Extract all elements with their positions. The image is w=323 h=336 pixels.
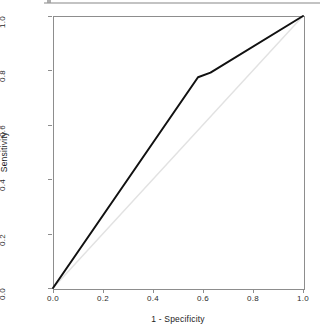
chart-curves	[53, 16, 303, 288]
x-tick-mark	[203, 289, 204, 293]
x-axis-title: 1 - Specificity	[151, 314, 205, 324]
x-tick-label: 0.2	[97, 294, 109, 303]
x-tick-mark	[253, 289, 254, 293]
x-tick-mark	[303, 289, 304, 293]
y-tick-mark	[48, 288, 52, 289]
plot-surface	[53, 16, 303, 288]
clipped-top-edge	[44, 2, 320, 4]
roc-plot: 0.0 0.2 0.4 0.6 0.8 1.0 0.0 0.2 0.4 0.6 …	[0, 0, 323, 336]
x-tick-label: 0.8	[247, 294, 259, 303]
x-tick-label: 0.4	[147, 294, 159, 303]
clipped-top-speck	[47, 0, 51, 3]
y-axis-title: Sensitivity	[0, 132, 9, 172]
x-tick-mark	[53, 289, 54, 293]
x-tick-label: 0.0	[47, 294, 59, 303]
y-tick-label: 0.2	[0, 234, 7, 246]
y-tick-mark	[48, 234, 52, 235]
x-tick-mark	[153, 289, 154, 293]
y-tick-mark	[48, 70, 52, 71]
y-tick-mark	[48, 16, 52, 17]
x-tick-mark	[103, 289, 104, 293]
chance-reference-line	[53, 16, 303, 288]
y-tick-mark	[48, 179, 52, 180]
x-tick-label: 0.6	[197, 294, 209, 303]
x-tick-label: 1.0	[297, 294, 309, 303]
y-tick-label: 0.4	[0, 179, 7, 191]
y-tick-label: 0.8	[0, 70, 7, 82]
y-tick-label: 1.0	[0, 16, 7, 28]
y-tick-label: 0.0	[0, 288, 7, 300]
y-tick-mark	[48, 125, 52, 126]
